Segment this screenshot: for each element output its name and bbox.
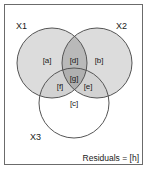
region-label-e: [e] [84, 83, 93, 91]
set-label-x1: X1 [16, 22, 27, 31]
region-label-g: [g] [70, 75, 79, 83]
venn-diagram-figure: X1 X2 X3 [a] [d] [b] [f] [g] [e] [c] Res… [0, 0, 149, 171]
set-label-x2: X2 [116, 22, 127, 31]
region-label-c: [c] [70, 100, 78, 108]
region-label-b: [b] [95, 57, 104, 65]
region-label-a: [a] [43, 57, 52, 65]
set-label-x3: X3 [30, 133, 41, 142]
residuals-caption: Residuals = [h] [83, 154, 139, 163]
region-label-d: [d] [70, 57, 79, 65]
region-label-f: [f] [57, 83, 63, 91]
